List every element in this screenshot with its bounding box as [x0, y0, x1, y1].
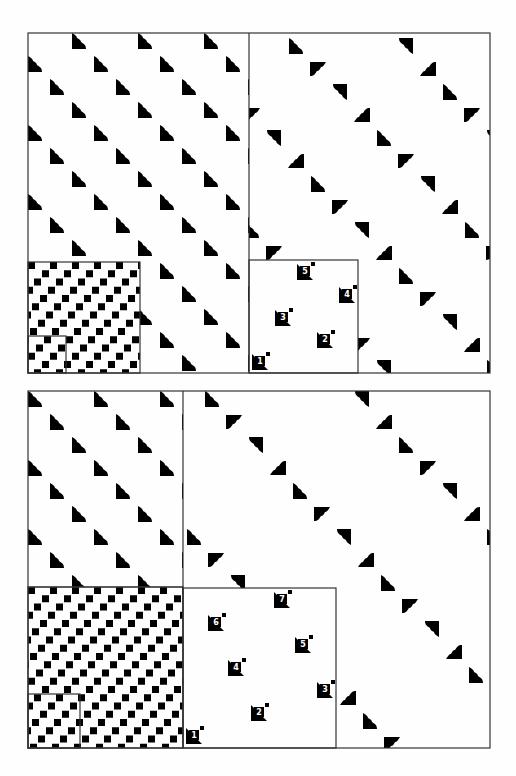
marker-label: 2: [256, 708, 262, 717]
tile-motif: [116, 217, 130, 233]
square-tile: [148, 645, 155, 652]
square-tile: [64, 361, 71, 368]
square-tile: [0, 620, 3, 627]
tile-motif: [160, 125, 174, 141]
tile-motif: [249, 437, 263, 453]
square-tile: [0, 336, 7, 343]
tile-motif: [446, 645, 462, 659]
tile-motif: [205, 391, 219, 407]
square-tile: [52, 744, 59, 751]
square-tile: [122, 604, 129, 611]
tile-motif: [116, 148, 130, 164]
square-tile: [124, 345, 131, 352]
tile-motif: [425, 621, 439, 637]
square-tile: [10, 303, 17, 310]
square-tile: [62, 620, 69, 627]
square-tile: [6, 262, 13, 269]
square-tile: [120, 303, 127, 310]
tile-motif: [398, 154, 414, 168]
square-tile: [0, 595, 5, 602]
tile-motif: [376, 415, 392, 429]
square-tile: [106, 295, 113, 302]
tile-motif: [248, 148, 262, 164]
tile-motif: [399, 268, 413, 284]
square-tile: [28, 262, 35, 269]
square-tile: [108, 686, 115, 693]
square-tile: [126, 736, 133, 743]
square-tile: [68, 312, 75, 319]
square-tile: [150, 711, 157, 718]
square-tile: [106, 711, 113, 718]
square-tile: [34, 279, 41, 286]
square-tile: [38, 320, 45, 327]
square-tile: [62, 711, 69, 718]
square-tile: [90, 637, 97, 644]
tile-motif: [204, 309, 218, 325]
square-tile: [144, 694, 151, 701]
tile-motif: [384, 737, 400, 751]
square-tile: [66, 246, 73, 253]
tile-motif: [138, 171, 152, 187]
square-tile: [14, 579, 21, 586]
tile-motif: [28, 194, 42, 210]
square-tile: [176, 661, 183, 668]
square-tile: [6, 587, 13, 594]
square-tile: [156, 637, 163, 644]
tile-motif: [381, 575, 395, 591]
square-tile: [124, 254, 131, 261]
tile-motif: [289, 38, 303, 54]
tile-motif: [442, 200, 458, 214]
square-tile: [18, 295, 25, 302]
square-tile: [36, 254, 43, 261]
square-tile: [40, 620, 47, 627]
square-tile: [116, 353, 123, 360]
square-tile: [12, 369, 19, 376]
tile-motif: [50, 148, 64, 164]
square-tile: [78, 604, 85, 611]
tile-motif: [94, 391, 108, 407]
square-tile: [94, 678, 101, 685]
square-tile: [28, 587, 35, 594]
tile-motif: [358, 553, 374, 567]
tile-motif: [160, 391, 174, 407]
square-tile: [0, 686, 5, 693]
tile-motif: [402, 599, 418, 613]
square-tile: [114, 287, 121, 294]
square-tile: [84, 620, 91, 627]
tile-motif: [469, 667, 483, 683]
square-tile: [162, 653, 169, 660]
square-tile: [160, 678, 167, 685]
square-tile: [0, 711, 3, 718]
tile-motif: [337, 529, 351, 545]
marker-label: 4: [233, 663, 239, 672]
tile-motif: [464, 507, 480, 521]
tile-motif: [72, 102, 86, 118]
square-tile: [134, 637, 141, 644]
tile-motif: [160, 460, 174, 476]
marker-label: 5: [300, 640, 306, 649]
tile-motif: [72, 171, 86, 187]
square-tile: [98, 719, 105, 726]
tile-motif: [266, 16, 282, 30]
tile-motif: [443, 483, 457, 499]
square-tile: [54, 303, 61, 310]
square-tile: [104, 736, 111, 743]
tile-motif: [182, 355, 196, 371]
square-tile: [140, 653, 147, 660]
square-tile: [44, 661, 51, 668]
square-tile: [4, 612, 11, 619]
square-tile: [66, 571, 73, 578]
square-tile: [172, 711, 179, 718]
tile-motif: [50, 217, 64, 233]
square-tile: [20, 270, 27, 277]
tile-motif: [28, 391, 42, 407]
tile-motif: [226, 332, 240, 348]
square-tile: [62, 295, 69, 302]
tile-motif: [187, 529, 201, 545]
square-tile: [128, 295, 135, 302]
tile-motif: [50, 483, 64, 499]
square-tile: [60, 645, 67, 652]
square-tile: [26, 287, 33, 294]
square-tile: [14, 254, 21, 261]
square-tile: [102, 579, 109, 586]
